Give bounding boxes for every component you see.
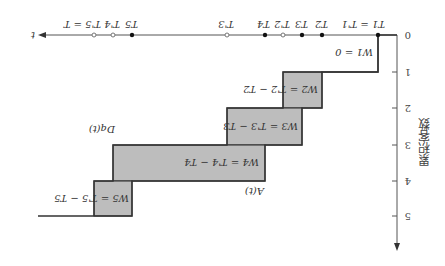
wait-label-w4: W4 = T'4 − T4: [184, 157, 259, 168]
diagram-canvas: T1 = T'1 T2 T3 T'2 T4 T'3 T5 T'4 T'5 = T…: [0, 0, 445, 266]
point-t2: [320, 33, 324, 37]
tick-2: 2: [405, 103, 411, 114]
arrival-curve-label: A(t): [245, 186, 265, 197]
count-axis-label: 累积客数: [418, 117, 432, 166]
tick-3: 3: [405, 140, 411, 151]
wait-label-w5: W5 = T'5 − T5: [54, 193, 129, 204]
label-t1: T1 = T'1: [341, 19, 385, 30]
point-t4: [263, 33, 267, 37]
point-t5: [130, 33, 134, 37]
label-t2-prime: T'2: [274, 19, 290, 30]
tick-5: 5: [405, 211, 411, 222]
label-t5: T5: [125, 19, 138, 30]
point-t5-prime: [92, 33, 96, 37]
point-t3-prime: [225, 33, 229, 37]
point-t1: [376, 33, 380, 37]
tick-4: 4: [405, 176, 411, 187]
count-axis-ticks: [392, 72, 397, 216]
label-t4: T4: [257, 19, 270, 30]
wait-label-w2: W2 = T'2 − T2: [243, 84, 318, 95]
time-axis-arrow-icon: [38, 32, 46, 38]
queue-cumulative-diagram: T1 = T'1 T2 T3 T'2 T4 T'3 T5 T'4 T'5 = T…: [0, 0, 445, 266]
label-t3-prime: T'3: [218, 19, 234, 30]
label-t4-prime: T'4: [104, 19, 120, 30]
tick-0: 0: [405, 30, 411, 41]
point-t4-prime: [111, 33, 115, 37]
point-t2-prime: [281, 33, 285, 37]
label-t5-prime: T'5 = T: [62, 19, 101, 30]
wait-label-w3: W3 = T'3 − T3: [223, 121, 298, 132]
tick-1: 1: [405, 67, 411, 78]
count-axis-arrow-icon: [394, 243, 400, 251]
point-t3: [300, 33, 304, 37]
wait-label-w1: W1 = 0: [335, 47, 373, 58]
label-t2: T2: [315, 19, 328, 30]
label-t3: T3: [295, 19, 308, 30]
departure-curve-label: Dq(t): [89, 124, 116, 135]
time-axis-label: t: [30, 30, 35, 41]
